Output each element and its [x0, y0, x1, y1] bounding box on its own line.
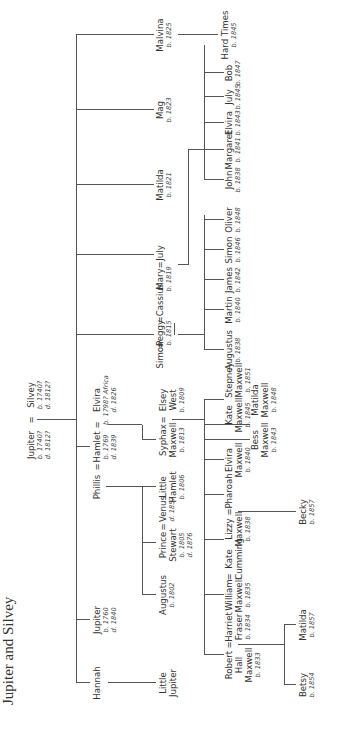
- person-little-jupiter: Little Jupiter: [158, 669, 178, 697]
- name: Jupiter: [168, 669, 178, 697]
- connector: [76, 334, 154, 335]
- name: William: [224, 578, 234, 613]
- person-malvina: Malvina b. 1825: [155, 18, 173, 51]
- connector: [204, 464, 205, 465]
- name: West: [168, 387, 178, 412]
- person-elvira-maxwell: Elvira Maxwell b. 1840: [224, 443, 252, 478]
- person-elvira: Elvira b. 1798? Africa d. 1826: [92, 375, 118, 425]
- person-elvira-1843: Elvira b. 1843: [224, 110, 242, 135]
- connector: [188, 149, 204, 150]
- connector: [178, 334, 204, 335]
- person-jupiter-root: Jupiter b. 1740? d. 1812?: [26, 431, 52, 460]
- connector: [37, 419, 77, 420]
- connector: [76, 254, 154, 255]
- birth: b. 1848: [270, 383, 278, 418]
- name: Syphax: [158, 423, 168, 458]
- name: Hard Times: [220, 11, 230, 60]
- name: Phillis: [92, 475, 102, 500]
- person-james: James b. 1842: [224, 267, 242, 293]
- birth: b. 1854: [308, 672, 316, 697]
- birth: b. 1841: [234, 131, 242, 170]
- person-hannah: Hannah: [92, 666, 102, 699]
- connector: [76, 682, 90, 683]
- person-matilda-1857: Matilda b. 1857: [298, 609, 316, 641]
- person-silvey: Silvey b. 1740? d. 1812?: [26, 381, 52, 410]
- birth: b. 1806: [178, 471, 186, 502]
- birth: b. 1805: [178, 528, 186, 561]
- death: d. 1839: [110, 431, 118, 462]
- birth: b. 1843: [270, 423, 278, 458]
- birth: b. 1857: [308, 609, 316, 641]
- person-kate-maxwell: Kate Maxwell b. 1845: [224, 398, 252, 433]
- name: Fraser: [234, 612, 244, 642]
- marriage-sign: =: [26, 416, 36, 423]
- connector: [204, 594, 224, 595]
- name: Elvira: [224, 110, 234, 135]
- birth: b. 1740?: [36, 431, 44, 460]
- name: Oliver: [224, 207, 234, 232]
- birth: b. 1823: [165, 97, 173, 122]
- birth: b. 1813: [178, 423, 186, 458]
- person-matilda-maxwell: Matilda Maxwell b. 1848: [250, 383, 278, 418]
- name: Silvey: [26, 381, 36, 410]
- name: Maxwell: [234, 578, 244, 613]
- name: Margaret: [224, 131, 234, 170]
- person-jupiter-1760: Jupiter b. 1760 d. 1840: [92, 606, 118, 634]
- connector: [204, 309, 224, 310]
- connector: [178, 264, 188, 265]
- marriage-sign: =: [158, 416, 168, 423]
- name: Harriet: [224, 612, 234, 642]
- person-lizzy-maxwell: Lizzy Maxwell b. 1838: [224, 512, 252, 547]
- person-robert-hall-maxwell: Robert Hall Maxwell b. 1833: [224, 648, 262, 683]
- connector: [76, 446, 90, 447]
- family-tree-diagram: Jupiter and Silvey Jupiter b. 1740? d. 1…: [0, 0, 340, 745]
- birth: b. 1834: [244, 612, 252, 642]
- birth: b. 1815: [165, 320, 173, 346]
- birth: b. 1740?: [36, 381, 44, 410]
- connector: [204, 96, 224, 97]
- person-matilda: Matilda b. 1821: [155, 169, 173, 201]
- person-hard-times: Hard Times b. 1845: [220, 11, 238, 60]
- person-oliver: Oliver b. 1848: [224, 207, 242, 232]
- connector: [142, 542, 156, 543]
- birth: b. 1838: [234, 167, 242, 192]
- birth: b. 1842: [234, 267, 242, 293]
- connector: [204, 122, 224, 123]
- marriage-sign: =: [224, 508, 234, 515]
- connector: [142, 439, 156, 440]
- connector: [238, 644, 284, 645]
- person-pharoah: Pharoah: [224, 473, 234, 508]
- death: d. 1812?: [44, 381, 52, 410]
- marriage-sign: =: [158, 523, 168, 530]
- connector: [108, 682, 156, 683]
- death: d. 1840: [110, 606, 118, 634]
- connector: [188, 150, 189, 265]
- name: Prince: [158, 528, 168, 561]
- connector: [204, 219, 224, 220]
- name: James: [224, 267, 234, 293]
- connector: [204, 399, 224, 400]
- person-augustus-1838: Augustus b. 1838: [224, 330, 242, 370]
- connector: [204, 654, 224, 655]
- person-mary: Mary b. 1819: [155, 266, 173, 291]
- name: Mag: [155, 97, 165, 122]
- name: Jupiter: [26, 431, 36, 460]
- name: Martin: [224, 296, 234, 323]
- birth: b. 1845: [230, 11, 238, 60]
- name: Betsy: [298, 672, 308, 697]
- birth: b. 1769: [102, 431, 110, 462]
- person-july-1845: July b. 1845: [224, 84, 242, 109]
- birth: b. 1835: [244, 578, 252, 613]
- birth: b. 1851: [244, 362, 252, 397]
- name: Little: [158, 669, 168, 697]
- name: Maxwell: [168, 423, 178, 458]
- birth: b. 1833: [254, 648, 262, 683]
- name: Augustus: [158, 575, 168, 615]
- person-prince-stewart: Prince Stewart b. 1805 d. 1876: [158, 528, 194, 561]
- name: Maxwell: [234, 512, 244, 547]
- connector: [238, 511, 296, 512]
- marriage-sign: =: [92, 463, 102, 470]
- connector: [174, 323, 175, 335]
- connector: [284, 684, 296, 685]
- name: Maxwell: [260, 423, 270, 458]
